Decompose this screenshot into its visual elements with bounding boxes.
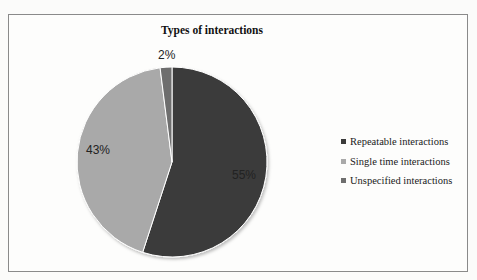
legend-swatch-icon bbox=[341, 139, 346, 144]
data-label-single: 43% bbox=[86, 143, 110, 157]
legend-item-single: Single time interactions bbox=[341, 152, 452, 172]
legend-label: Repeatable interactions bbox=[350, 136, 448, 147]
legend-label: Single time interactions bbox=[350, 156, 450, 167]
chart-legend: Repeatable interactions Single time inte… bbox=[341, 132, 452, 191]
legend-swatch-icon bbox=[341, 159, 346, 164]
legend-swatch-icon bbox=[341, 178, 346, 183]
data-label-unspecified: 2% bbox=[158, 48, 175, 62]
legend-item-repeatable: Repeatable interactions bbox=[341, 132, 452, 152]
data-label-repeatable: 55% bbox=[232, 168, 256, 182]
legend-label: Unspecified interactions bbox=[350, 175, 452, 186]
legend-item-unspecified: Unspecified interactions bbox=[341, 171, 452, 191]
